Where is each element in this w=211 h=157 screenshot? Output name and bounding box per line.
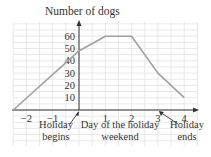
annotation-line1: Holiday <box>164 119 210 131</box>
y-axis-arrow-icon <box>77 20 82 26</box>
y-tick-label: 60 <box>65 31 76 42</box>
x-axis-title-line1: Day of the holiday <box>78 119 162 131</box>
annotation-line1: Holiday <box>32 119 80 131</box>
annotation-holiday-begins: Holiday begins <box>32 119 80 143</box>
annotation-line2: begins <box>32 131 80 143</box>
x-axis-title-line2: weekend <box>78 131 162 143</box>
annotation-holiday-ends: Holiday ends <box>164 119 210 143</box>
y-tick-label: 10 <box>65 92 76 103</box>
annotation-line2: ends <box>164 131 210 143</box>
x-tick-label: −2 <box>21 113 32 124</box>
y-tick-label: 50 <box>65 43 76 54</box>
y-axis-title: Number of dogs <box>45 6 120 17</box>
y-tick-label: 20 <box>65 80 76 91</box>
y-tick-label: 30 <box>65 68 76 79</box>
x-axis-title: Day of the holiday weekend <box>78 119 162 143</box>
x-axis-arrow-icon <box>193 108 199 113</box>
